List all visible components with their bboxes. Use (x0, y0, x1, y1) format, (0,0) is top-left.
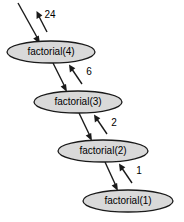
return-value-label-6: 6 (86, 66, 92, 77)
recursion-diagram: factorial(4) factorial(3) factorial(2) f… (0, 0, 184, 222)
return-edge-f1-to-f2-arrowhead (119, 164, 125, 172)
return-edge-f2-to-f3-arrowhead (94, 115, 100, 123)
return-value-label-1: 1 (136, 165, 142, 176)
node-factorial-3[interactable]: factorial(3) (34, 91, 122, 113)
return-value-label-24: 24 (44, 9, 56, 20)
call-edge-f2-to-f1 (105, 162, 118, 191)
return-value-label-2: 2 (111, 117, 117, 128)
return-edge-f3-to-f4 (69, 65, 82, 85)
return-edge-f3-to-f4-line (72, 69, 83, 85)
call-edge-external-to-f4-line (18, 3, 38, 39)
diagram-canvas: factorial(4) factorial(3) factorial(2) f… (0, 0, 184, 222)
return-edge-f1-to-f2 (119, 164, 132, 184)
call-edge-f2-to-f1-line (105, 162, 116, 186)
node-factorial-4[interactable]: factorial(4) (7, 41, 95, 63)
node-factorial-2-label: factorial(2) (79, 145, 126, 156)
call-edge-external-to-f4 (18, 3, 40, 44)
node-factorial-1-label: factorial(1) (104, 195, 151, 206)
return-edge-f1-to-f2-line (122, 168, 133, 184)
return-edge-f3-to-f4-arrowhead (69, 65, 75, 73)
call-edge-f4-to-f3 (53, 63, 67, 92)
node-factorial-3-label: factorial(3) (54, 96, 101, 107)
node-factorial-4-label: factorial(4) (27, 46, 74, 57)
call-edge-f3-to-f2 (79, 113, 92, 141)
return-edge-f2-to-f3 (94, 115, 107, 135)
call-edge-f4-to-f3-line (53, 63, 65, 87)
return-edge-f2-to-f3-line (97, 119, 108, 135)
call-edge-f3-to-f2-line (79, 113, 90, 136)
node-factorial-1[interactable]: factorial(1) (83, 190, 173, 212)
node-factorial-2[interactable]: factorial(2) (58, 140, 148, 162)
